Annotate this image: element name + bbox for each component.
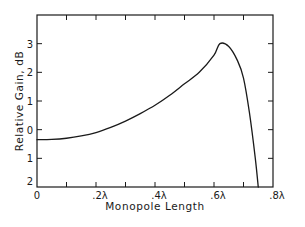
y-axis-tick-labels: 210123: [27, 39, 33, 187]
y-tick-label: 2: [27, 67, 33, 78]
y-tick-label: 1: [27, 96, 33, 107]
x-tick-label: .6λ: [210, 190, 226, 201]
x-axis-title: Monopole Length: [105, 200, 205, 212]
plot-frame: [37, 15, 273, 187]
y-tick-label: 2: [27, 176, 33, 187]
y-tick-label: 3: [27, 39, 33, 50]
y-tick-label: 0: [27, 125, 33, 136]
x-axis-ticks: [67, 15, 244, 187]
gain-curve: [37, 43, 258, 187]
y-tick-label: 1: [27, 153, 33, 164]
x-tick-label: 0: [34, 190, 40, 201]
x-tick-label: .8λ: [269, 190, 285, 201]
chart: 0.2λ.4λ.6λ.8λ 210123 Monopole Length Rel…: [0, 0, 305, 227]
y-axis-title: Relative Gain, dB: [13, 51, 25, 152]
